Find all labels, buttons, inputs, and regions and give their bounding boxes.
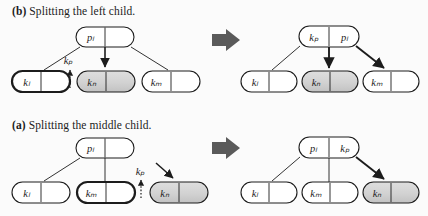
node-key-label: kₙ <box>160 188 170 199</box>
annotation-label: kₚ <box>64 55 74 66</box>
panel-a-before-edges <box>44 158 105 181</box>
node-parent-pl: pₗ <box>76 27 134 47</box>
node-key-label-right: kₚ <box>340 143 350 154</box>
annotation-insert-arrow <box>156 163 173 178</box>
node-key-label-left: pₗ <box>309 143 318 154</box>
node-key-label: kₙ <box>87 77 97 88</box>
node-parent-kp-pl: kₚ pₗ <box>299 26 359 47</box>
transform-arrow-panel-b <box>212 29 240 51</box>
panel-a-before: pₗ kₚ kₗ kₘ <box>12 138 208 203</box>
figure-root: (b) Splitting the left child. (a) Splitt… <box>0 0 428 216</box>
node-key-label: kₗ <box>23 77 31 88</box>
edge-parent-to-left <box>272 157 300 181</box>
transform-arrow-panel-a <box>212 137 240 159</box>
node-key-label-right: pₗ <box>340 32 349 43</box>
edge-parent-to-right-arrow <box>356 46 384 68</box>
node-child-kn-a-before: kₙ <box>150 182 208 203</box>
node-key-label: kₘ <box>86 188 98 199</box>
node-key-label: kₙ <box>373 188 383 199</box>
node-child-kn-a-after: kₙ <box>363 182 419 203</box>
panel-b-before-edges <box>44 47 168 70</box>
node-child-km-a-after: kₘ <box>302 182 358 203</box>
panel-b-after: kₚ pₗ kₗ kₙ kₘ <box>241 26 419 92</box>
node-key-label-left: kₚ <box>309 32 319 43</box>
node-key-label: kₗ <box>252 77 260 88</box>
node-parent-pl-a: pₗ <box>76 138 134 158</box>
edge-parent-to-left <box>272 46 300 70</box>
panel-b-before: pₗ kₚ kₗ kₙ kₘ <box>12 27 200 92</box>
node-child-kl-a-after: kₗ <box>241 182 297 203</box>
node-key-label: kₘ <box>371 77 383 88</box>
node-key-label: kₙ <box>312 77 322 88</box>
node-child-kn-b-before: kₙ <box>77 71 135 92</box>
node-key-label: pₗ <box>86 32 95 43</box>
figure-canvas: pₗ kₚ kₗ kₙ kₘ <box>0 0 428 216</box>
node-child-kn-b-after: kₙ <box>302 71 358 92</box>
edge-parent-to-left <box>44 158 80 181</box>
edge-parent-to-left <box>44 47 80 70</box>
node-key-label: pₗ <box>86 143 95 154</box>
node-key-label: kₗ <box>23 188 31 199</box>
node-key-label: kₗ <box>252 188 260 199</box>
node-child-km-b-before: kₘ <box>142 71 200 92</box>
panel-a-after: pₗ kₚ kₗ kₘ kₙ <box>241 137 419 203</box>
panel-b-after-edges <box>272 46 384 70</box>
node-child-kl-a-before: kₗ <box>12 182 70 203</box>
node-key-label: kₘ <box>151 77 163 88</box>
node-key-label: kₘ <box>310 188 322 199</box>
node-child-km-b-after: kₘ <box>363 71 419 92</box>
right-block-arrow-icon <box>212 29 240 51</box>
edge-parent-to-right-arrow <box>356 157 384 179</box>
node-child-km-a-before: kₘ <box>77 182 135 203</box>
node-parent-pl-kp: pₗ kₚ <box>299 137 359 158</box>
right-block-arrow-icon <box>212 137 240 159</box>
edge-parent-to-right <box>131 47 168 70</box>
annotation-label: kₚ <box>136 166 146 177</box>
node-child-kl-b-after: kₗ <box>241 71 297 92</box>
node-child-kl-b-before: kₗ <box>12 71 70 92</box>
panel-a-after-edges <box>272 157 384 182</box>
